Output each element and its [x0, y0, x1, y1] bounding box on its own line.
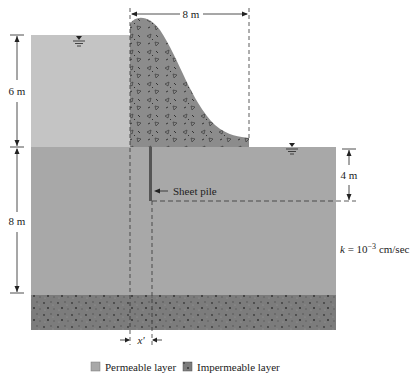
pile-depth-dimension: 4 m — [341, 149, 358, 200]
legend-swatch-impermeable — [183, 362, 192, 371]
water-height-dimension: 6 m — [9, 35, 26, 147]
legend-label-impermeable: Impermeable layer — [197, 361, 280, 373]
legend-label-permeable: Permeable layer — [105, 361, 176, 373]
pile-depth-label: 4 m — [341, 169, 358, 181]
offset-label: x' — [136, 334, 145, 346]
seepage-diagram: 8 m 6 m 8 m 4 m — [0, 0, 419, 387]
water-height-label: 6 m — [9, 85, 26, 97]
offset-dimension: x' — [120, 334, 162, 346]
legend-swatch-permeable — [91, 362, 100, 371]
dam-width-dimension: 8 m — [131, 8, 248, 20]
permeability-label: k = 10−3 cm/sec — [340, 242, 410, 255]
dam-width-label: 8 m — [183, 8, 200, 20]
k-equals: = 10 — [345, 243, 368, 255]
layer-thickness-label: 8 m — [9, 215, 26, 227]
sheet-pile — [149, 147, 152, 201]
dam-body — [130, 18, 249, 147]
permeable-layer — [31, 147, 336, 295]
layer-thickness-dimension: 8 m — [9, 148, 26, 293]
impermeable-layer — [31, 295, 336, 330]
sheet-pile-label: Sheet pile — [173, 185, 217, 197]
k-units: cm/sec — [376, 243, 409, 255]
k-exponent: −3 — [368, 242, 377, 251]
legend: Permeable layer Impermeable layer — [91, 361, 280, 373]
upstream-water — [31, 35, 130, 147]
